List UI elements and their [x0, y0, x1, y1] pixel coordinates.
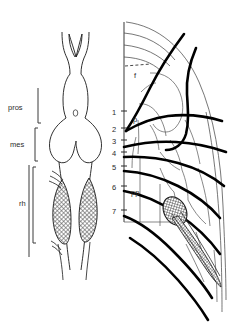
- axis-tick-label-7: 7: [112, 207, 116, 216]
- axis-tick-label-2: 2: [112, 125, 116, 134]
- label-rh: rh: [19, 199, 26, 208]
- axis-tick-label-5: 5: [112, 163, 116, 172]
- axis-tick-label-4: 4: [112, 149, 116, 158]
- anatomical-figure: pros mes rh: [0, 0, 247, 327]
- label-pros: pros: [8, 103, 23, 112]
- label-pp: pp: [131, 188, 139, 197]
- axis-tick-label-3: 3: [112, 137, 116, 146]
- figure-svg: pros mes rh: [0, 0, 247, 327]
- axis-tick-label-6: 6: [112, 183, 116, 192]
- axis-tick-label-1: 1: [112, 108, 116, 117]
- label-p: p: [133, 115, 137, 124]
- label-mes: mes: [10, 140, 24, 149]
